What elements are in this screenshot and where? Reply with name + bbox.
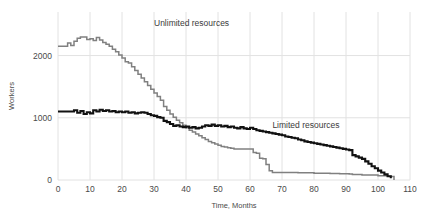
horizontal-gridlines — [58, 56, 410, 180]
series-inline-labels: Unlimited resourcesLimited resources — [154, 18, 339, 130]
x-tick-20: 20 — [117, 184, 127, 194]
x-tick-60: 60 — [245, 184, 255, 194]
x-tick-30: 30 — [149, 184, 159, 194]
series-label-limited-resources: Limited resources — [272, 120, 339, 130]
series-label-unlimited-resources: Unlimited resources — [154, 18, 229, 28]
series-line-limited-resources — [58, 110, 391, 178]
x-tick-0: 0 — [56, 184, 61, 194]
workers-vs-time-step-chart: 0102030405060708090100110 010002000 Unli… — [0, 0, 432, 222]
y-axis-title: Workers — [7, 82, 16, 110]
y-tick-0: 0 — [47, 175, 52, 185]
x-tick-110: 110 — [403, 184, 417, 194]
vertical-gridlines — [58, 12, 410, 180]
y-axis-tick-labels: 010002000 — [33, 51, 52, 185]
x-tick-10: 10 — [85, 184, 95, 194]
x-tick-50: 50 — [213, 184, 223, 194]
x-tick-70: 70 — [277, 184, 287, 194]
x-axis-title: Time, Months — [211, 201, 256, 210]
series-line-unlimited-resources — [58, 37, 394, 180]
series-lines — [58, 37, 394, 180]
x-tick-40: 40 — [181, 184, 191, 194]
x-tick-100: 100 — [371, 184, 385, 194]
chart-container: 0102030405060708090100110 010002000 Unli… — [0, 0, 432, 222]
x-axis-tick-labels: 0102030405060708090100110 — [56, 184, 417, 194]
y-tick-1000: 1000 — [33, 113, 52, 123]
x-tick-80: 80 — [309, 184, 319, 194]
x-tick-90: 90 — [341, 184, 351, 194]
y-tick-2000: 2000 — [33, 51, 52, 61]
